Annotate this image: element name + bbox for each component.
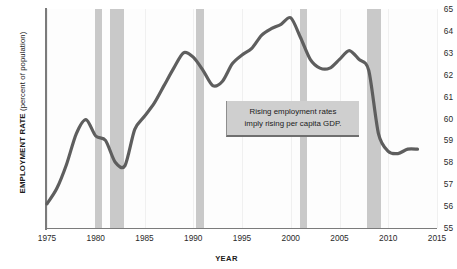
x-axis-tick-1985: 1985 <box>125 233 165 243</box>
x-axis-tick-1990: 1990 <box>173 233 213 243</box>
x-axis-tick-1995: 1995 <box>222 233 262 243</box>
x-axis-tick-2005: 2005 <box>320 233 360 243</box>
y-axis-title: EMPLOYMENT RATE (percent of population) <box>18 3 27 223</box>
x-axis-tick-1975: 1975 <box>27 233 67 243</box>
y-axis-title-plain: (percent of population) <box>18 32 27 114</box>
x-axis-tick-2010: 2010 <box>368 233 408 243</box>
x-axis-title: YEAR <box>0 254 453 263</box>
x-axis-tick-2015: 2015 <box>417 233 457 243</box>
annotation-callout: Rising employment rates imply rising per… <box>226 101 359 137</box>
gridline-2015 <box>437 9 438 228</box>
annotation-line-2: imply rising per capita GDP. <box>231 118 355 130</box>
x-axis-tick-2000: 2000 <box>271 233 311 243</box>
annotation-line-1: Rising employment rates <box>231 106 355 118</box>
x-axis-tick-1980: 1980 <box>76 233 116 243</box>
y-axis-title-bold: EMPLOYMENT RATE <box>18 113 27 193</box>
